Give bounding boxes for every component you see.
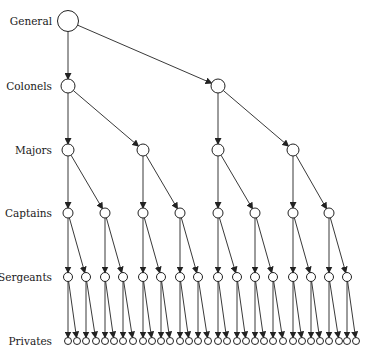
- node-captains: [175, 208, 185, 218]
- node-privates: [336, 338, 343, 345]
- node-privates: [261, 338, 268, 345]
- edge-arrow: [274, 281, 283, 337]
- edge-arrow: [106, 218, 121, 273]
- node-sergeants: [214, 273, 223, 282]
- edge-arrow: [219, 218, 235, 273]
- node-captains: [100, 208, 110, 218]
- node-sergeants: [289, 273, 298, 282]
- node-privates: [299, 338, 306, 345]
- node-privates: [317, 338, 324, 345]
- node-colonels: [211, 79, 225, 93]
- edge-arrow: [69, 281, 77, 337]
- node-privates: [140, 338, 147, 345]
- node-captains: [63, 208, 73, 218]
- node-sergeants: [157, 273, 166, 282]
- node-privates: [224, 338, 231, 345]
- edge-arrow: [294, 281, 302, 337]
- node-captains: [288, 208, 298, 218]
- edge-arrow: [221, 155, 252, 209]
- node-sergeants: [139, 273, 148, 282]
- edges: [68, 25, 356, 337]
- node-privates: [252, 338, 259, 345]
- node-privates: [353, 338, 360, 345]
- node-privates: [83, 338, 90, 345]
- node-sergeants: [119, 273, 128, 282]
- node-sergeants: [251, 273, 260, 282]
- edge-arrow: [162, 281, 170, 337]
- node-sergeants: [101, 273, 110, 282]
- node-privates: [290, 338, 297, 345]
- edge-arrow: [256, 281, 264, 337]
- node-captains: [250, 208, 260, 218]
- node-privates: [308, 338, 315, 345]
- edge-arrow: [199, 281, 208, 337]
- node-sergeants: [176, 273, 185, 282]
- node-captains: [138, 208, 148, 218]
- node-sergeants: [82, 273, 91, 282]
- node-sergeants: [325, 273, 334, 282]
- node-privates: [326, 338, 333, 345]
- edge-arrow: [87, 281, 96, 337]
- node-privates: [186, 338, 193, 345]
- edge-arrow: [296, 155, 327, 208]
- edge-arrow: [330, 281, 339, 337]
- node-privates: [130, 338, 137, 345]
- edge-arrow: [69, 218, 84, 273]
- edge-arrow: [348, 281, 356, 337]
- edge-arrow: [106, 281, 114, 337]
- edge-arrow: [78, 25, 212, 83]
- nodes: [58, 11, 360, 345]
- edge-arrow: [312, 281, 320, 337]
- node-privates: [111, 338, 118, 345]
- node-general: [58, 11, 79, 32]
- edge-arrow: [256, 218, 271, 273]
- edge-arrow: [238, 281, 246, 337]
- node-privates: [149, 338, 156, 345]
- node-sergeants: [307, 273, 316, 282]
- node-privates: [205, 338, 212, 345]
- node-privates: [93, 338, 100, 345]
- node-privates: [234, 338, 241, 345]
- node-privates: [344, 338, 351, 345]
- node-sergeants: [269, 273, 278, 282]
- node-privates: [74, 338, 81, 345]
- edge-arrow: [73, 91, 138, 147]
- node-sergeants: [343, 273, 352, 282]
- node-sergeants: [64, 273, 73, 282]
- node-privates: [102, 338, 109, 345]
- node-privates: [195, 338, 202, 345]
- edge-arrow: [71, 155, 102, 209]
- node-majors: [62, 144, 74, 156]
- edge-arrow: [294, 218, 309, 273]
- node-majors: [212, 144, 224, 156]
- node-majors: [287, 144, 299, 156]
- node-sergeants: [194, 273, 203, 282]
- edge-arrow: [181, 218, 196, 273]
- node-sergeants: [233, 273, 242, 282]
- node-privates: [65, 338, 72, 345]
- node-colonels: [61, 79, 75, 93]
- node-privates: [270, 338, 277, 345]
- edge-arrow: [181, 281, 189, 337]
- node-privates: [167, 338, 174, 345]
- edge-arrow: [144, 281, 152, 337]
- edge-arrow: [219, 281, 227, 337]
- node-captains: [213, 208, 223, 218]
- edge-arrow: [330, 218, 345, 273]
- edge-arrow: [146, 155, 177, 209]
- node-privates: [120, 338, 127, 345]
- edge-arrow: [223, 91, 288, 147]
- node-privates: [243, 338, 250, 345]
- edge-arrow: [144, 218, 159, 273]
- hierarchy-tree: [0, 0, 370, 354]
- node-privates: [280, 338, 287, 345]
- node-privates: [158, 338, 165, 345]
- node-privates: [215, 338, 222, 345]
- edge-arrow: [124, 281, 133, 337]
- node-majors: [137, 144, 149, 156]
- node-captains: [324, 208, 334, 218]
- node-privates: [177, 338, 184, 345]
